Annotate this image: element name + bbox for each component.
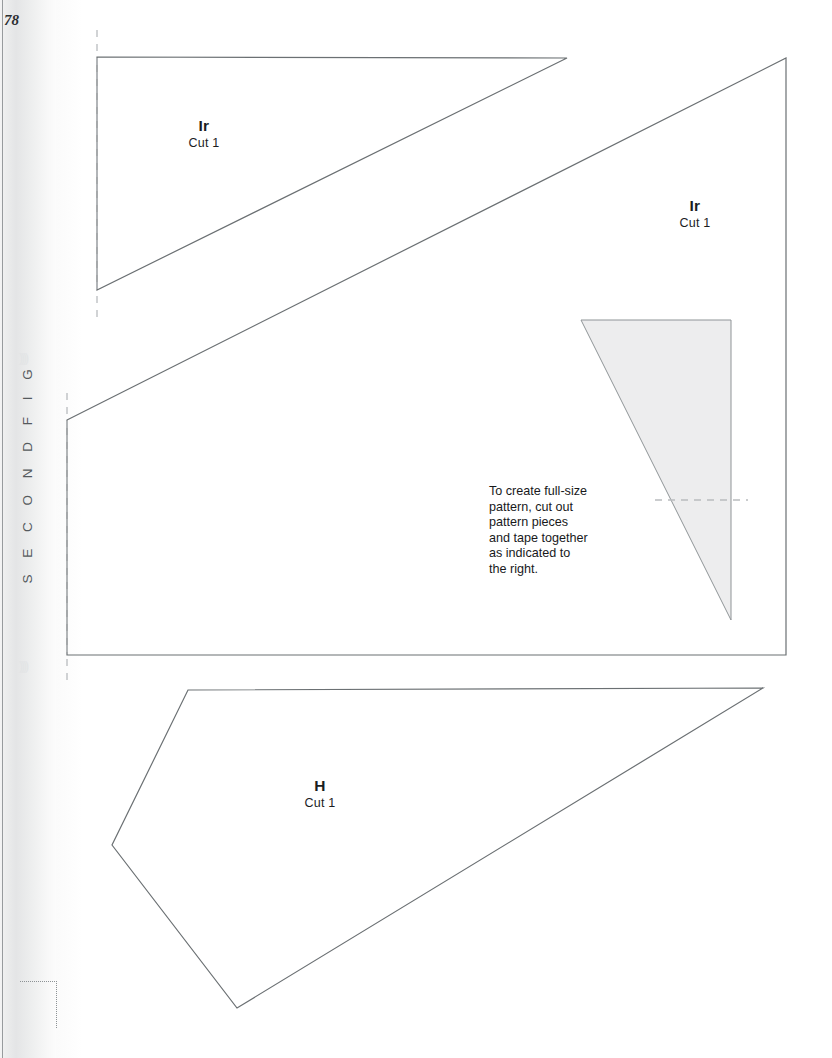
note-line: To create full-size <box>489 484 619 500</box>
pattern-page: )))) S E C O N D F I G )))) 78 Ir Cut 1 … <box>0 0 832 1058</box>
note-line: as indicated to <box>489 546 619 562</box>
pattern-drawing <box>0 0 832 1058</box>
pattern-label-ir-upper: Ir Cut 1 <box>159 117 249 151</box>
note-line: pattern, cut out <box>489 500 619 516</box>
pattern-piece-H <box>112 688 763 1008</box>
pattern-label-code: H <box>275 777 365 795</box>
pattern-label-cut: Cut 1 <box>650 216 740 231</box>
assembly-instruction-note: To create full-size pattern, cut out pat… <box>489 484 619 578</box>
note-line: pattern pieces <box>489 515 619 531</box>
pattern-label-code: Ir <box>650 197 740 215</box>
pattern-label-cut: Cut 1 <box>159 136 249 151</box>
pattern-label-ir-lower: Ir Cut 1 <box>650 197 740 231</box>
note-line: the right. <box>489 562 619 578</box>
note-line: and tape together <box>489 531 619 547</box>
pattern-label-h: H Cut 1 <box>275 777 365 811</box>
pattern-label-cut: Cut 1 <box>275 796 365 811</box>
pattern-label-code: Ir <box>159 117 249 135</box>
pattern-piece-Ir-upper <box>97 57 567 290</box>
